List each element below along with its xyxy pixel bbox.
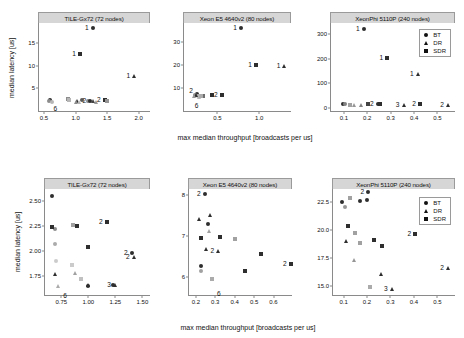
data-point-bt: [53, 242, 57, 246]
point-count-label: 2: [214, 91, 219, 98]
data-point-sdr: [372, 238, 376, 242]
x-tick-mark: [215, 295, 216, 298]
point-count-label: 6: [54, 105, 58, 112]
data-point-sdr: [233, 237, 237, 241]
data-point-dr: [207, 229, 211, 233]
chart-panel-bottom-right: XeonPhi 5110P (240 nodes)15.017.520.022.…: [332, 178, 455, 296]
x-tick-mark: [195, 295, 196, 298]
point-count-label: 6: [195, 102, 199, 109]
point-count-label: 1: [85, 24, 90, 31]
x-tick-mark: [437, 295, 438, 298]
figure-panel-grid: TILE-Gx72 (72 nodes)510150.51.01.52.0121…: [0, 0, 464, 338]
legend-item-sdr: SDR: [423, 216, 446, 222]
data-point-sdr: [259, 252, 263, 256]
data-point-bt: [199, 269, 203, 273]
legend-label: DR: [433, 40, 442, 46]
data-point-sdr: [385, 56, 389, 60]
data-point-sdr: [243, 269, 247, 273]
data-point-sdr: [78, 52, 82, 56]
data-point-sdr: [86, 245, 90, 249]
x-axis-label: max median throughput [broadcasts per us…: [155, 134, 335, 141]
data-point-sdr: [199, 94, 203, 98]
plot-area-top-middle: 1020300.51.0111262: [183, 23, 291, 112]
data-points-top-middle: 111262: [184, 23, 291, 111]
x-tick-mark: [437, 111, 438, 114]
data-point-dr: [73, 271, 77, 275]
x-tick-mark: [343, 111, 344, 114]
legend-label: BT: [433, 32, 441, 38]
data-point-dr: [352, 258, 356, 262]
x-tick-mark: [413, 295, 414, 298]
data-point-sdr: [105, 99, 109, 103]
legend-item-sdr: SDR: [423, 48, 446, 54]
x-tick-mark: [367, 295, 368, 298]
data-point-dr: [390, 287, 394, 291]
data-point-sdr: [418, 102, 422, 106]
point-count-label: 2: [82, 97, 87, 104]
point-count-label: 1: [233, 23, 238, 30]
data-point-bt: [362, 27, 366, 31]
data-point-dr: [56, 284, 60, 288]
legend: BTDRSDR: [419, 29, 451, 57]
chart-panel-top-left: TILE-Gx72 (72 nodes)510150.51.01.52.0121…: [38, 12, 150, 112]
x-tick-mark: [107, 111, 108, 114]
data-point-sdr: [105, 220, 109, 224]
data-point-dr: [352, 103, 356, 107]
legend-label: DR: [433, 208, 442, 214]
x-tick-mark: [115, 295, 116, 298]
data-point-sdr: [348, 103, 352, 107]
data-point-dr: [379, 272, 383, 276]
data-point-dr: [77, 100, 81, 104]
point-count-label: 2: [97, 96, 102, 103]
data-point-dr: [132, 74, 136, 78]
x-axis-label: max median throughput [broadcasts per us…: [158, 324, 338, 331]
legend-label: SDR: [433, 216, 446, 222]
data-point-bt: [343, 205, 347, 209]
data-point-dr: [402, 103, 406, 107]
plot-area-bottom-middle: 6780.20.30.40.50.62226: [188, 189, 292, 296]
data-point-sdr: [67, 98, 71, 102]
data-point-dr: [53, 272, 57, 276]
point-count-label: 1: [127, 71, 132, 78]
circle-icon: [423, 32, 429, 38]
x-tick-mark: [142, 295, 143, 298]
data-point-dr: [192, 94, 196, 98]
data-point-sdr: [346, 224, 350, 228]
data-point-sdr: [199, 236, 203, 240]
x-tick-mark: [343, 295, 344, 298]
point-count-label: 2: [361, 187, 366, 194]
data-point-sdr: [75, 224, 79, 228]
data-point-dr: [344, 239, 348, 243]
triangle-icon: [423, 40, 429, 46]
data-point-dr: [208, 213, 212, 217]
point-count-label: 6: [63, 292, 67, 299]
point-count-label: 2: [283, 259, 288, 266]
plot-area-bottom-right: 15.017.520.022.50.10.20.30.40.52322BTDRS…: [332, 189, 455, 296]
data-point-bt: [343, 102, 347, 106]
data-point-sdr: [79, 277, 83, 281]
x-tick-mark: [259, 111, 260, 114]
data-points-bottom-left: 23226: [45, 189, 150, 295]
data-point-sdr: [50, 225, 54, 229]
point-count-label: 3: [384, 284, 389, 291]
data-point-sdr: [358, 241, 362, 245]
point-count-label: 2: [440, 100, 445, 107]
data-point-sdr: [289, 262, 293, 266]
data-point-bt: [365, 198, 369, 202]
x-tick-mark: [390, 111, 391, 114]
data-point-bt: [239, 26, 243, 30]
data-point-bt: [340, 200, 344, 204]
square-icon: [423, 216, 429, 222]
legend-item-dr: DR: [423, 40, 446, 46]
data-point-dr: [197, 217, 201, 221]
legend: BTDRSDR: [419, 197, 451, 225]
data-point-sdr: [220, 93, 224, 97]
point-count-label: 1: [72, 50, 77, 57]
x-tick-mark: [44, 111, 45, 114]
x-tick-mark: [75, 111, 76, 114]
data-point-bt: [358, 199, 362, 203]
data-point-sdr: [353, 231, 357, 235]
data-point-dr: [446, 266, 450, 270]
data-point-bt: [203, 192, 207, 196]
data-point-dr: [86, 283, 90, 287]
